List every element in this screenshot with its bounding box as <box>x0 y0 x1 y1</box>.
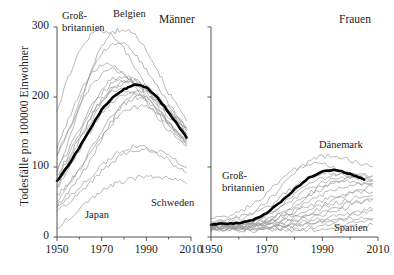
y-tick-label: 200 <box>11 89 49 101</box>
series-line <box>57 79 187 176</box>
series-line <box>57 29 187 140</box>
annotation-line: Dänemark <box>319 139 363 151</box>
series-line <box>57 78 187 186</box>
y-tick-label: 0 <box>11 229 49 241</box>
annotation-line: Schweden <box>151 197 194 209</box>
y-tick-label: 300 <box>11 19 49 31</box>
annotation-line: Groß- <box>62 10 105 22</box>
panel-title-maenner: Männer <box>159 13 195 25</box>
panel-title-frauen: Frauen <box>339 13 371 25</box>
annotation-line: Belgien <box>113 8 146 20</box>
x-tick-label: 1950 <box>35 243 79 255</box>
annotation-line: Japan <box>85 209 109 221</box>
y-axis-title: Todesfälle pro 100000 Einwohner <box>18 16 30 236</box>
series-line <box>57 88 187 208</box>
annotation-line: Groß- <box>222 170 265 182</box>
x-tick-label: 1950 <box>189 243 233 255</box>
panel-maenner <box>54 27 192 241</box>
annotation-schweden: Schweden <box>151 197 194 209</box>
annotation-belgien: Belgien <box>113 8 146 20</box>
annotation-line: britannien <box>222 182 265 194</box>
annotation-daenemark: Dänemark <box>319 139 363 151</box>
x-tick-label: 1990 <box>124 243 168 255</box>
x-tick-label: 1970 <box>245 243 289 255</box>
x-tick-label: 2010 <box>356 243 394 255</box>
x-tick-label: 1970 <box>80 243 124 255</box>
annotation-japan: Japan <box>85 209 109 221</box>
annotation-line: Spanien <box>334 222 368 234</box>
annotation-spanien: Spanien <box>334 222 368 234</box>
annotation-grossbritannien: Groß-britannien <box>62 10 105 33</box>
panel-frauen <box>208 27 379 241</box>
series-line-highlight <box>57 84 187 180</box>
annotation-grossbritannien: Groß-britannien <box>222 170 265 193</box>
y-tick-label: 100 <box>11 159 49 171</box>
x-tick-label: 1990 <box>300 243 344 255</box>
annotation-line: britannien <box>62 22 105 34</box>
axis-lines <box>211 27 378 237</box>
